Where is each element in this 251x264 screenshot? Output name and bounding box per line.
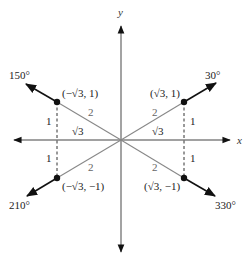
- reference-angle-diagram: x y 30° 150° 210° 330° (√3, 1) (−√3, 1) …: [0, 0, 251, 264]
- point-label-210: (−√3, −1): [62, 180, 105, 193]
- hypotenuse-label-q4: 2: [152, 161, 158, 173]
- hypotenuse-label-q3: 2: [88, 161, 94, 173]
- y-axis-label: y: [117, 6, 123, 18]
- terminal-ray-150: [26, 84, 57, 102]
- hypotenuse-label-q2: 2: [88, 106, 94, 118]
- adjacent-label-right: √3: [152, 125, 164, 137]
- hypotenuse-label-q1: 2: [152, 106, 158, 118]
- angle-label-330: 330°: [215, 199, 236, 211]
- opposite-label-q4: 1: [190, 152, 196, 164]
- opposite-label-q3: 1: [46, 152, 52, 164]
- opposite-label-q2: 1: [46, 115, 52, 127]
- x-axis-label: x: [236, 134, 242, 146]
- terminal-ray-210: [27, 178, 57, 196]
- point-label-330: (√3, −1): [144, 180, 180, 193]
- point-150: [54, 99, 60, 105]
- point-label-150: (−√3, 1): [62, 87, 98, 100]
- angle-label-30: 30°: [205, 69, 220, 81]
- point-210: [54, 175, 60, 181]
- opposite-label-q1: 1: [190, 115, 196, 127]
- terminal-ray-330: [184, 178, 215, 196]
- point-330: [181, 175, 187, 181]
- terminal-ray-30: [184, 83, 216, 102]
- point-30: [181, 99, 187, 105]
- adjacent-label-left: √3: [72, 125, 84, 137]
- angle-label-150: 150°: [9, 69, 30, 81]
- angle-label-210: 210°: [9, 199, 30, 211]
- point-label-30: (√3, 1): [150, 87, 180, 100]
